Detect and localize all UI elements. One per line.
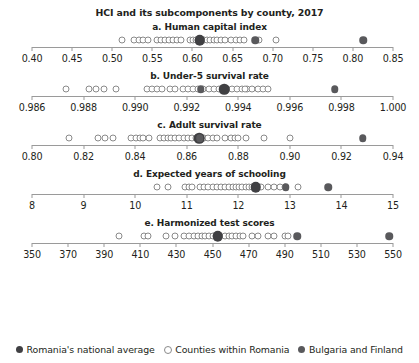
data-point-county — [285, 233, 292, 240]
x-axis-ticklabels-c: 0.800.820.840.860.880.900.920.94 — [0, 151, 419, 165]
axis-tick — [289, 194, 290, 198]
data-point-county — [272, 37, 279, 44]
axis-ticklabel: 0.80 — [22, 151, 43, 162]
data-point-national — [251, 182, 262, 193]
axis-tick — [212, 243, 213, 247]
axis-tick — [393, 243, 394, 247]
data-point-county — [112, 86, 119, 93]
axis-ticklabel: 0.992 — [173, 102, 199, 113]
data-point-county — [146, 135, 153, 142]
data-point-county — [188, 184, 195, 191]
axis-ticklabel: 0.90 — [280, 151, 301, 162]
axis-ticklabel: 370 — [59, 249, 77, 260]
axis-tick — [32, 243, 33, 247]
data-point-county — [235, 135, 242, 142]
data-point-compare — [324, 183, 332, 191]
axis-tick — [186, 145, 187, 149]
axis-tick — [320, 243, 321, 247]
dot-strip-e — [0, 229, 419, 243]
axis-tick — [104, 243, 105, 247]
data-point-county — [94, 135, 101, 142]
axis-tick — [112, 47, 113, 51]
axis-tick — [152, 47, 153, 51]
axis-ticklabel: 13 — [284, 200, 296, 211]
plot-area-a — [0, 33, 419, 53]
dot-strip-b — [0, 82, 419, 96]
axis-ticklabel: 530 — [348, 249, 366, 260]
data-point-county — [62, 86, 69, 93]
axis-ticklabel: 510 — [312, 249, 330, 260]
panel-title-d: d. Expected years of schooling — [0, 169, 419, 180]
data-point-county — [159, 86, 166, 93]
panel-a: a. Human capital index0.400.450.500.550.… — [0, 22, 419, 67]
axis-ticklabel: 410 — [131, 249, 149, 260]
data-point-national — [219, 84, 230, 95]
data-point-county — [118, 37, 125, 44]
data-point-county — [144, 233, 151, 240]
panel-title-b: b. Under-5 survival rate — [0, 71, 419, 82]
data-point-county — [115, 233, 122, 240]
axis-ticklabel: 0.92 — [331, 151, 352, 162]
data-point-county — [286, 135, 293, 142]
data-point-county — [165, 184, 172, 191]
axis-tick — [68, 243, 69, 247]
axis-tick — [284, 243, 285, 247]
data-point-national — [194, 35, 205, 46]
axis-ticklabel: 1.000 — [380, 102, 406, 113]
axis-ticklabel: 0.45 — [62, 53, 83, 64]
dot-strip-a — [0, 33, 419, 47]
data-point-compare — [360, 36, 368, 44]
axis-ticklabel: 450 — [204, 249, 222, 260]
axis-tick — [83, 194, 84, 198]
panel-title-a: a. Human capital index — [0, 22, 419, 33]
axis-tick — [232, 47, 233, 51]
axis-ticklabel: 0.88 — [228, 151, 249, 162]
legend-label-county: Counties within Romania — [175, 344, 289, 355]
axis-tick — [341, 145, 342, 149]
axis-tick — [248, 243, 249, 247]
data-point-national — [213, 231, 224, 242]
data-point-county — [102, 135, 109, 142]
panel-c: c. Adult survival rate0.800.820.840.860.… — [0, 120, 419, 165]
axis-tick — [32, 96, 33, 100]
axis-tick — [32, 47, 33, 51]
data-point-compare — [196, 134, 204, 142]
axis-ticklabel: 0.40 — [22, 53, 43, 64]
plot-area-d — [0, 180, 419, 200]
county-dot-icon — [164, 346, 172, 354]
data-point-compare — [282, 183, 290, 191]
data-point-county — [66, 135, 73, 142]
data-point-compare — [294, 232, 302, 240]
axis-tick — [312, 47, 313, 51]
axis-tick — [176, 243, 177, 247]
axis-tick — [238, 194, 239, 198]
plot-area-b — [0, 82, 419, 102]
x-axis-ticklabels-a: 0.400.450.500.550.600.650.700.750.800.85 — [0, 53, 419, 67]
axis-ticklabel: 0.990 — [122, 102, 148, 113]
data-point-compare — [386, 232, 394, 240]
axis-tick — [393, 47, 394, 51]
axis-ticklabel: 350 — [23, 249, 41, 260]
axis-ticklabel: 0.70 — [262, 53, 283, 64]
axis-tick — [272, 47, 273, 51]
plot-area-e — [0, 229, 419, 249]
axis-tick — [83, 96, 84, 100]
panel-e: e. Harmonized test scores350370390410430… — [0, 218, 419, 263]
axis-tick — [32, 194, 33, 198]
plot-area-c — [0, 131, 419, 151]
axis-ticklabel: 0.996 — [277, 102, 303, 113]
chart-container: HCI and its subcomponents by county, 201… — [0, 7, 419, 263]
axis-tick — [341, 194, 342, 198]
axis-tick — [238, 96, 239, 100]
data-point-county — [240, 37, 247, 44]
axis-ticklabel: 14 — [336, 200, 348, 211]
data-point-county — [242, 135, 249, 142]
axis-ticklabel: 470 — [240, 249, 258, 260]
legend-label-national: Romania's national average — [27, 344, 155, 355]
data-point-county — [241, 86, 248, 93]
data-point-county — [144, 37, 151, 44]
data-point-county — [154, 184, 161, 191]
axis-ticklabel: 0.84 — [125, 151, 146, 162]
axis-ticklabel: 0.998 — [328, 102, 354, 113]
national-average-dot-icon — [16, 346, 23, 353]
